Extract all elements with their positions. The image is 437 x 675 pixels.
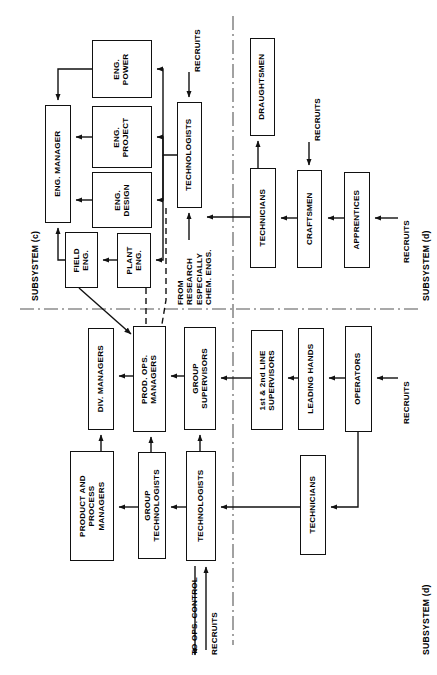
node-first-second-line-supervisors[interactable]: 1st & 2nd LINE SUPERVISORS <box>251 330 283 430</box>
node-group-technologists[interactable]: GROUP TECHNOLOGISTS <box>138 452 166 559</box>
link-technologists-engdesign <box>157 155 163 200</box>
node-label: TECHNOLOGISTS <box>185 119 194 191</box>
link-technologists-engpower <box>157 69 177 155</box>
node-technologists-production[interactable]: TECHNOLOGISTS <box>186 451 216 561</box>
diagram-canvas: ENG. POWER ENG. PROJECT ENG. DESIGN ENG.… <box>0 0 437 675</box>
node-label: TECHNOLOGISTS <box>196 470 205 542</box>
subsystem-label-d-top-right: SUBSYSTEM (d) <box>421 230 431 301</box>
node-label: PLANT ENG. <box>125 247 144 275</box>
node-leading-hands[interactable]: LEADING HANDS <box>298 328 324 430</box>
node-group-supervisors[interactable]: GROUP SUPERVISORS <box>184 327 216 430</box>
node-div-managers[interactable]: DIV. MANAGERS <box>88 328 114 430</box>
node-label: DRAUGHTSMEN <box>258 54 267 120</box>
node-field-eng[interactable]: FIELD ENG. <box>65 232 98 288</box>
node-eng-project[interactable]: ENG. PROJECT <box>92 106 152 168</box>
link-operators-techniciansd <box>331 432 358 507</box>
label-recruits-technologists-production: RECRUITS <box>210 612 219 655</box>
label-from-research: FROM RESEARCH ESPECIALLY CHEM. ENGS. <box>176 249 214 305</box>
node-draughtsmen[interactable]: DRAUGHTSMEN <box>250 38 275 136</box>
subsystem-label-c: SUBSYSTEM (c) <box>30 231 40 301</box>
node-technologists-engineering[interactable]: TECHNOLOGISTS <box>177 102 202 208</box>
node-apprentices[interactable]: APPRENTICES <box>344 172 370 268</box>
node-craftsmen[interactable]: CRAFTSMEN <box>297 170 322 268</box>
subsystem-label-d-bottom-right: SUBSYSTEM (d) <box>421 584 431 655</box>
node-label: ENG. DESIGN <box>113 184 132 216</box>
label-recruits-draughtsmen: RECRUITS <box>313 98 322 141</box>
link-technologists-engproject <box>157 137 163 155</box>
link-fieldeng-engmanager <box>58 228 65 260</box>
node-eng-design[interactable]: ENG. DESIGN <box>92 172 152 228</box>
node-label: 1st & 2nd LINE SUPERVISORS <box>258 350 277 411</box>
node-technicians-upper[interactable]: TECHNICIANS <box>250 168 276 268</box>
node-label: FIELD ENG. <box>72 248 91 272</box>
node-label: TECHNICIANS <box>308 476 317 534</box>
node-label: TECHNICIANS <box>258 189 267 247</box>
node-eng-power[interactable]: ENG. POWER <box>92 40 152 98</box>
node-label: LEADING HANDS <box>306 344 315 414</box>
node-label: DIV. MANAGERS <box>96 345 105 412</box>
node-label: PRODUCT AND PROCESS MANAGERS <box>78 475 106 537</box>
node-label: PROD. OPS. MANAGERS <box>140 354 159 403</box>
node-eng-manager[interactable]: ENG. MANAGER <box>45 105 71 223</box>
node-technicians-lower[interactable]: TECHNICIANS <box>300 455 326 555</box>
node-operators[interactable]: OPERATORS <box>345 326 372 432</box>
node-prod-ops-managers[interactable]: PROD. OPS. MANAGERS <box>133 326 166 432</box>
link-engpower-engmanager <box>58 69 92 100</box>
node-label: APPRENTICES <box>352 190 361 250</box>
node-label: GROUP TECHNOLOGISTS <box>143 469 162 541</box>
label-recruits-operators: RECRUITS <box>402 381 411 424</box>
label-recruits-apprentices: RECRUITS <box>402 220 411 263</box>
link-technologists-planteng <box>156 155 163 260</box>
node-label: GROUP SUPERVISORS <box>191 348 210 409</box>
node-label: ENG. MANAGER <box>53 131 62 197</box>
node-label: ENG. POWER <box>113 53 132 85</box>
node-label: ENG. PROJECT <box>113 117 132 157</box>
label-recruits-technologists-engineering: RECRUITS <box>193 29 202 72</box>
label-to-ops-control: TO OPS. CONTROL <box>190 577 199 655</box>
node-label: OPERATORS <box>354 353 363 405</box>
node-product-and-process-managers[interactable]: PRODUCT AND PROCESS MANAGERS <box>70 451 114 561</box>
node-plant-eng[interactable]: PLANT ENG. <box>117 233 151 288</box>
node-label: CRAFTSMEN <box>305 193 314 246</box>
